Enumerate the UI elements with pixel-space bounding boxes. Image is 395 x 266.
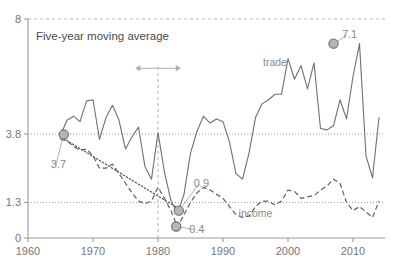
series-group: [61, 44, 380, 227]
chart-svg: 19601970198019902000201001.33.88 3.70.90…: [0, 0, 395, 266]
series-line-trade: [61, 44, 380, 214]
y-tick-label: 0: [15, 232, 21, 244]
x-tick-label: 2010: [341, 245, 365, 257]
chart-title: Five-year moving average: [36, 30, 169, 42]
label-annotation-0-4: 0.4: [189, 223, 204, 235]
x-tick-label: 1990: [211, 245, 235, 257]
series-line-income: [61, 139, 380, 227]
label-annotation-3-7: 3.7: [51, 158, 66, 170]
y-tick-label: 3.8: [6, 128, 21, 140]
span-arrow-head-left: [135, 65, 140, 71]
axes-group: [24, 19, 385, 242]
marker-annotation-0-4: [172, 222, 181, 231]
span-arrow-group: [135, 65, 181, 71]
marker-annotation-7-1: [329, 39, 338, 48]
label-annotation-7-1: 7.1: [342, 28, 357, 40]
annotation-markers-group: [56, 35, 347, 231]
x-tick-label: 1960: [16, 245, 40, 257]
series-label-income: income: [239, 207, 273, 219]
marker-annotation-0-9: [174, 206, 183, 215]
y-tick-label: 1.3: [6, 196, 21, 208]
x-tick-label: 1980: [146, 245, 170, 257]
x-tick-label: 2000: [276, 245, 300, 257]
chart-container: 19601970198019902000201001.33.88 3.70.90…: [0, 0, 395, 266]
x-tick-label: 1970: [81, 245, 105, 257]
span-arrow-head-right: [176, 65, 181, 71]
label-annotation-0-9: 0.9: [194, 177, 209, 189]
series-label-trade: trade: [263, 56, 287, 68]
marker-annotation-3-7: [59, 130, 68, 139]
y-tick-label: 8: [15, 13, 21, 25]
